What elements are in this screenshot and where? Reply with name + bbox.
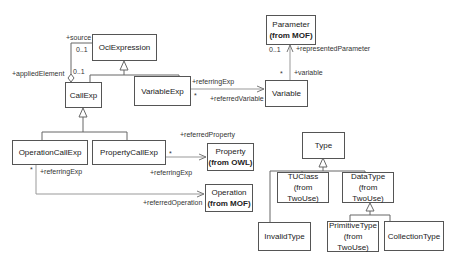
role-applied-element: +appliedElement xyxy=(12,70,64,78)
class-package: (from MOF) xyxy=(269,30,312,41)
role-referred-operation: +referredOperation xyxy=(143,199,202,207)
class-call-exp[interactable]: CallExp xyxy=(65,82,102,108)
class-operation[interactable]: Operation (from MOF) xyxy=(205,184,253,212)
class-package: (from TwoUse) xyxy=(278,182,328,204)
class-name: VariableExp xyxy=(141,86,184,97)
class-name: Variable xyxy=(272,88,301,99)
class-operation-call-exp[interactable]: OperationCallExp xyxy=(12,140,88,165)
class-tuclass[interactable]: TUClass (from TwoUse) xyxy=(277,172,329,203)
class-name: Type xyxy=(315,140,332,151)
class-type[interactable]: Type xyxy=(302,132,345,159)
class-name: Parameter xyxy=(272,19,309,30)
class-property-call-exp[interactable]: PropertyCallExp xyxy=(92,140,166,165)
class-ocl-expression[interactable]: OclExpression xyxy=(92,34,157,61)
mult-source: 0..1 xyxy=(76,46,88,54)
mult-applied-element: 0..1 xyxy=(73,68,85,76)
class-name: TUClass xyxy=(288,171,319,182)
class-name: PrimitiveType xyxy=(329,220,377,231)
class-name: CollectionType xyxy=(388,231,440,242)
role-variable: +variable xyxy=(294,69,323,77)
class-variable-exp[interactable]: VariableExp xyxy=(134,76,191,106)
class-variable[interactable]: Variable xyxy=(265,80,308,107)
class-package: (from MOF) xyxy=(207,198,250,209)
class-name: InvalidType xyxy=(264,231,304,242)
mult-variable: * xyxy=(280,70,283,78)
mult-varexp: * xyxy=(194,92,197,100)
class-collection-type[interactable]: CollectionType xyxy=(384,221,444,251)
class-name: PropertyCallExp xyxy=(100,147,158,158)
class-invalid-type[interactable]: InvalidType xyxy=(258,222,311,251)
class-name: OclExpression xyxy=(99,42,151,53)
class-property[interactable]: Property (from OWL) xyxy=(207,143,254,171)
class-data-type[interactable]: DataType (from TwoUse) xyxy=(342,172,394,203)
class-package: (from OWL) xyxy=(209,157,253,168)
mult-propcall: * xyxy=(169,150,172,158)
class-package: (from TwoUse) xyxy=(328,231,378,253)
role-varexp-referring: +referringExp xyxy=(192,78,234,86)
class-name: DataType xyxy=(351,171,385,182)
role-represented-parameter: +representedParameter xyxy=(296,45,370,53)
mult-opcall: * xyxy=(30,166,33,174)
class-name: OperationCallExp xyxy=(19,147,82,158)
class-parameter[interactable]: Parameter (from MOF) xyxy=(266,15,316,45)
class-package: (from TwoUse) xyxy=(343,182,393,204)
role-source: +source xyxy=(66,34,91,42)
class-name: Operation xyxy=(211,187,246,198)
role-propcall-referring: +referringExp xyxy=(150,169,192,177)
role-referred-property: +referredProperty xyxy=(180,131,235,139)
role-referred-variable: +referredVariable xyxy=(210,95,264,103)
class-name: CallExp xyxy=(70,90,98,101)
mult-parameter: 0..1 xyxy=(269,46,281,54)
class-primitive-type[interactable]: PrimitiveType (from TwoUse) xyxy=(327,221,379,252)
class-name: Property xyxy=(215,146,245,157)
role-opcall-referring: +referringExp xyxy=(40,168,82,176)
